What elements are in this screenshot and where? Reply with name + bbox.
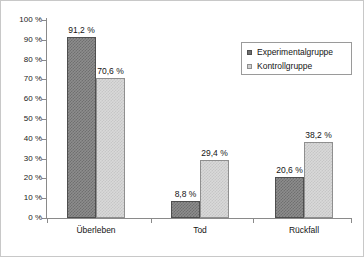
- bar-kontrollgruppe[interactable]: [304, 142, 333, 218]
- bar-value-label: 38,2 %: [291, 130, 346, 140]
- y-axis-tick-label-text: 100 %: [4, 15, 42, 24]
- y-axis-tick-label-text: 20 %: [4, 173, 42, 182]
- y-axis-tick-label-text: 70 %: [4, 74, 42, 83]
- bar-value-label: 91,2 %: [54, 25, 109, 35]
- legend-swatch-icon-kontrollgruppe: [247, 64, 252, 69]
- bar-experimentalgruppe[interactable]: [67, 37, 96, 218]
- y-axis-tick-label-text: 10 %: [4, 193, 42, 202]
- legend-item-experimentalgruppe[interactable]: Experimentalgruppe: [247, 46, 333, 58]
- chart-legend: Experimentalgruppe Kontrollgruppe: [241, 42, 352, 75]
- y-axis-tick-label: 30 %: [1, 154, 42, 163]
- y-axis-tick-label: 20 %: [1, 173, 42, 182]
- y-axis-tick-label: 10 %: [1, 193, 42, 202]
- x-axis-line: [46, 218, 352, 219]
- x-axis-category-label: Überleben: [46, 225, 146, 235]
- y-axis-tick-label-text: 40 %: [4, 134, 42, 143]
- legend-swatch-icon-experimentalgruppe: [247, 50, 252, 55]
- y-axis-tick-label: 80 %: [1, 55, 42, 64]
- x-axis-tick: [151, 219, 152, 223]
- y-axis-tick-label-text: 90 %: [4, 35, 42, 44]
- y-axis-tick-label: 60 %: [1, 94, 42, 103]
- y-axis-tick-label: 70 %: [1, 74, 42, 83]
- y-axis-tick-label-text: 80 %: [4, 55, 42, 64]
- y-axis-tick-label-text: 30 %: [4, 154, 42, 163]
- y-axis-tick-label: 0 %: [1, 213, 42, 222]
- bar-value-label: 8,8 %: [158, 189, 213, 199]
- x-axis-tick: [253, 219, 254, 223]
- bar-chart-figure: 0 %10 %20 %30 %40 %50 %60 %70 %80 %90 %1…: [0, 0, 364, 257]
- bar-kontrollgruppe[interactable]: [96, 78, 125, 218]
- y-axis-tick-label-text: 0 %: [4, 213, 42, 222]
- bar-value-label: 70,6 %: [83, 66, 138, 76]
- y-axis-tick-label-text: 60 %: [4, 94, 42, 103]
- legend-label-experimentalgruppe: Experimentalgruppe: [257, 47, 333, 57]
- y-axis-tick-label-text: 50 %: [4, 114, 42, 123]
- y-axis-tick-label: 40 %: [1, 134, 42, 143]
- y-axis-tick-label: 90 %: [1, 35, 42, 44]
- legend-item-kontrollgruppe[interactable]: Kontrollgruppe: [247, 60, 312, 72]
- bar-value-label: 20,6 %: [262, 165, 317, 175]
- bar-experimentalgruppe[interactable]: [275, 177, 304, 218]
- y-axis-tick-label: 100 %: [1, 15, 42, 24]
- y-axis-tick-label: 50 %: [1, 114, 42, 123]
- bar-value-label: 29,4 %: [187, 148, 242, 158]
- bar-experimentalgruppe[interactable]: [171, 201, 200, 218]
- x-axis-category-label: Tod: [150, 225, 250, 235]
- x-axis-tick: [351, 219, 352, 223]
- x-axis-category-label: Rückfall: [254, 225, 354, 235]
- x-axis-tick: [47, 219, 48, 223]
- legend-label-kontrollgruppe: Kontrollgruppe: [257, 61, 312, 71]
